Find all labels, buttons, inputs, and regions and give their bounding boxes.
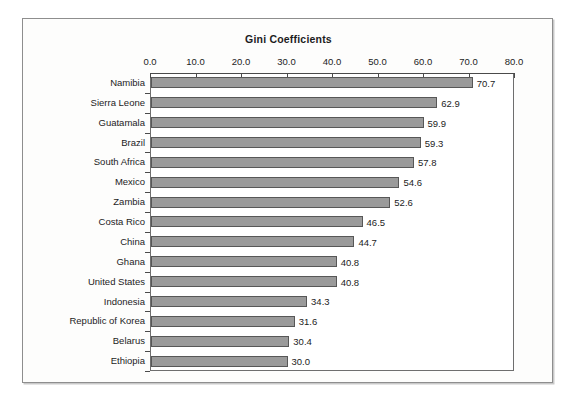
category-label: Brazil xyxy=(23,133,145,153)
category-label: Zambia xyxy=(23,192,145,212)
y-axis-tick xyxy=(145,371,150,372)
x-axis-tick-label: 80.0 xyxy=(494,56,534,67)
category-label: Costa Rico xyxy=(23,212,145,232)
bar-row: South Africa57.8 xyxy=(23,152,554,172)
bar-value-label: 30.4 xyxy=(293,336,312,347)
category-label: Belarus xyxy=(23,331,145,351)
bar[interactable] xyxy=(151,356,288,367)
bar-value-label: 31.6 xyxy=(299,316,318,327)
category-label: Ghana xyxy=(23,252,145,272)
bar[interactable] xyxy=(151,336,289,347)
bar[interactable] xyxy=(151,276,337,287)
bar[interactable] xyxy=(151,316,295,327)
category-label: United States xyxy=(23,272,145,292)
category-label: Sierra Leone xyxy=(23,93,145,113)
x-axis-tick-label: 70.0 xyxy=(449,56,489,67)
category-label: Namibia xyxy=(23,73,145,93)
bar-row: Sierra Leone62.9 xyxy=(23,93,554,113)
bar-row: Republic of Korea31.6 xyxy=(23,311,554,331)
bar[interactable] xyxy=(151,236,354,247)
bar[interactable] xyxy=(151,117,424,128)
category-label: Ethiopia xyxy=(23,351,145,371)
category-label: China xyxy=(23,232,145,252)
bar[interactable] xyxy=(151,77,473,88)
bar-value-label: 40.8 xyxy=(341,257,360,268)
bar-value-label: 54.6 xyxy=(403,177,422,188)
x-axis-tick-label: 20.0 xyxy=(221,56,261,67)
bar-value-label: 44.7 xyxy=(358,237,377,248)
x-axis-tick-label: 60.0 xyxy=(403,56,443,67)
bar-row: Mexico54.6 xyxy=(23,172,554,192)
bar-row: Guatamala59.9 xyxy=(23,113,554,133)
bar[interactable] xyxy=(151,216,363,227)
category-label: Republic of Korea xyxy=(23,311,145,331)
bar-row: China44.7 xyxy=(23,232,554,252)
page-frame: Gini Coefficients 0.010.020.030.040.050.… xyxy=(22,18,553,383)
bar-row: Indonesia34.3 xyxy=(23,292,554,312)
bar-value-label: 57.8 xyxy=(418,157,437,168)
bar-row: Namibia70.7 xyxy=(23,73,554,93)
bar-value-label: 34.3 xyxy=(311,296,330,307)
x-axis-tick-label: 40.0 xyxy=(312,56,352,67)
bar[interactable] xyxy=(151,256,337,267)
bar-row: United States40.8 xyxy=(23,272,554,292)
category-label: Indonesia xyxy=(23,292,145,312)
gini-coefficients-bar-chart: Gini Coefficients 0.010.020.030.040.050.… xyxy=(23,19,554,384)
x-axis-tick-label: 50.0 xyxy=(358,56,398,67)
category-label: Guatamala xyxy=(23,113,145,133)
bar[interactable] xyxy=(151,177,399,188)
bar-value-label: 59.3 xyxy=(425,138,444,149)
chart-title: Gini Coefficients xyxy=(23,33,554,45)
bar-value-label: 40.8 xyxy=(341,277,360,288)
bar-row: Ghana40.8 xyxy=(23,252,554,272)
category-label: South Africa xyxy=(23,152,145,172)
x-axis-tick-label: 10.0 xyxy=(176,56,216,67)
bar-row: Belarus30.4 xyxy=(23,331,554,351)
bar-value-label: 59.9 xyxy=(428,118,447,129)
bar-value-label: 70.7 xyxy=(477,78,496,89)
bar-value-label: 62.9 xyxy=(441,98,460,109)
bar[interactable] xyxy=(151,296,307,307)
bar-row: Brazil59.3 xyxy=(23,133,554,153)
bar-row: Costa Rico46.5 xyxy=(23,212,554,232)
bar[interactable] xyxy=(151,197,390,208)
bar-value-label: 46.5 xyxy=(367,217,386,228)
bar[interactable] xyxy=(151,137,421,148)
category-label: Mexico xyxy=(23,172,145,192)
bar[interactable] xyxy=(151,97,437,108)
bar-row: Zambia52.6 xyxy=(23,192,554,212)
bar-row: Ethiopia30.0 xyxy=(23,351,554,371)
bar-value-label: 30.0 xyxy=(292,356,311,367)
bar[interactable] xyxy=(151,157,414,168)
x-axis-tick-label: 0.0 xyxy=(130,56,170,67)
x-axis-tick-label: 30.0 xyxy=(267,56,307,67)
bar-value-label: 52.6 xyxy=(394,197,413,208)
